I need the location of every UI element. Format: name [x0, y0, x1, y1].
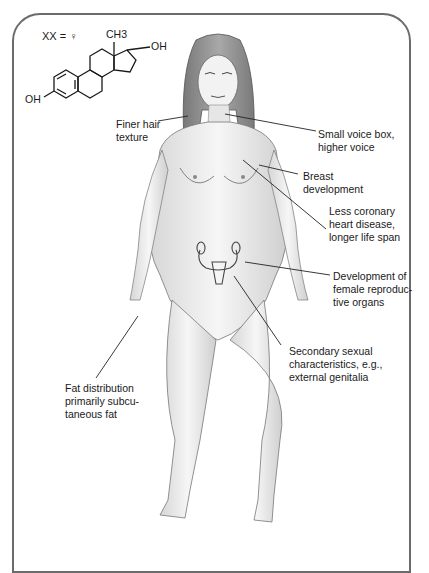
- label-breast-development: Breast development: [303, 170, 363, 196]
- label-reproductive-organs: Development of female reproduc- tive org…: [333, 270, 412, 309]
- label-secondary-characteristics: Secondary sexual characteristics, e.g., …: [289, 345, 382, 384]
- label-fat-distribution: Fat distribution primarily subcu- taneou…: [65, 382, 139, 421]
- label-finer-hair: Finer hair texture: [116, 118, 160, 144]
- label-voice-box: Small voice box, higher voice: [318, 128, 394, 154]
- label-coronary: Less coronary heart disease, longer life…: [329, 205, 400, 244]
